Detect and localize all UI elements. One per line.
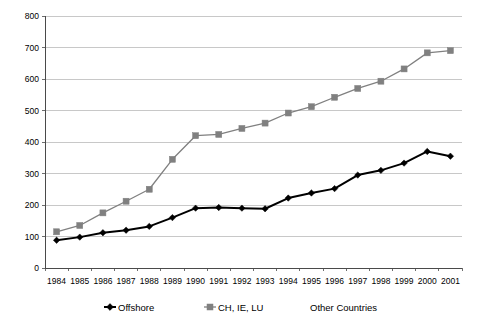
legend-label: Other Countries [310, 302, 377, 313]
y-tick-label: 300 [25, 169, 39, 179]
x-tick-label: 1996 [325, 276, 344, 286]
data-point-diamond [100, 230, 106, 236]
x-tick-label: 1985 [70, 276, 89, 286]
data-point-square [332, 94, 338, 100]
legend-label: Offshore [118, 302, 154, 313]
data-point-square [262, 120, 268, 126]
x-tick-label: 1989 [163, 276, 182, 286]
x-tick-label: 2001 [441, 276, 460, 286]
data-point-diamond [123, 227, 129, 233]
series-ch-ie-lu [54, 48, 454, 235]
x-tick-label: 1999 [395, 276, 414, 286]
x-tick-label: 1998 [371, 276, 390, 286]
data-point-square [424, 50, 430, 56]
y-tick-label: 600 [25, 74, 39, 84]
data-point-diamond [308, 190, 314, 196]
data-point-square [285, 110, 291, 116]
data-point-square [378, 78, 384, 84]
x-tick-label: 1997 [348, 276, 367, 286]
data-point-diamond [77, 234, 83, 240]
data-point-diamond [378, 167, 384, 173]
series-line [57, 151, 451, 240]
x-tick-label: 1988 [140, 276, 159, 286]
data-point-square [216, 131, 222, 137]
y-tick-label: 100 [25, 232, 39, 242]
x-tick-label: 1990 [186, 276, 205, 286]
x-tick-label: 1984 [47, 276, 66, 286]
chart-legend: OffshoreCH, IE, LUOther Countries [104, 302, 377, 313]
legend-marker-square [207, 304, 213, 310]
y-tick-labels: 0100200300400500600700800 [25, 11, 45, 273]
x-tick-label: 1986 [93, 276, 112, 286]
data-point-square [100, 210, 106, 216]
series-line [57, 51, 451, 232]
data-point-square [239, 125, 245, 131]
data-point-square [123, 198, 129, 204]
x-tick-label: 1992 [232, 276, 251, 286]
data-point-square [77, 222, 83, 228]
data-point-diamond [447, 153, 453, 159]
x-tick-label: 1995 [302, 276, 321, 286]
data-point-square [146, 186, 152, 192]
data-point-diamond [146, 223, 152, 229]
y-tick-label: 800 [25, 11, 39, 21]
data-point-square [54, 229, 60, 235]
y-tick-label: 700 [25, 43, 39, 53]
data-point-diamond [169, 214, 175, 220]
data-point-square [447, 48, 453, 54]
legend-marker-diamond [107, 304, 114, 311]
x-tick-label: 1987 [117, 276, 136, 286]
x-axis-line [45, 268, 462, 271]
chart-container: 0100200300400500600700800 19841985198619… [0, 0, 481, 324]
data-point-diamond [262, 206, 268, 212]
x-tick-labels: 1984198519861987198819891990199119921993… [47, 276, 460, 286]
data-point-square [169, 156, 175, 162]
y-tick-label: 500 [25, 106, 39, 116]
line-chart: 0100200300400500600700800 19841985198619… [0, 0, 481, 324]
x-tick-label: 2000 [418, 276, 437, 286]
x-tick-label: 1994 [279, 276, 298, 286]
series-offshore [53, 148, 453, 243]
x-tick-label: 1991 [209, 276, 228, 286]
data-point-square [193, 133, 199, 139]
data-point-diamond [53, 237, 59, 243]
data-point-diamond [239, 205, 245, 211]
legend-label: CH, IE, LU [218, 302, 264, 313]
data-point-square [308, 104, 314, 110]
data-point-square [355, 85, 361, 91]
y-tick-label: 200 [25, 200, 39, 210]
data-point-diamond [192, 205, 198, 211]
x-tick-label: 1993 [256, 276, 275, 286]
y-tick-label: 400 [25, 137, 39, 147]
y-tick-label: 0 [34, 263, 39, 273]
data-point-diamond [285, 195, 291, 201]
data-point-square [401, 66, 407, 72]
